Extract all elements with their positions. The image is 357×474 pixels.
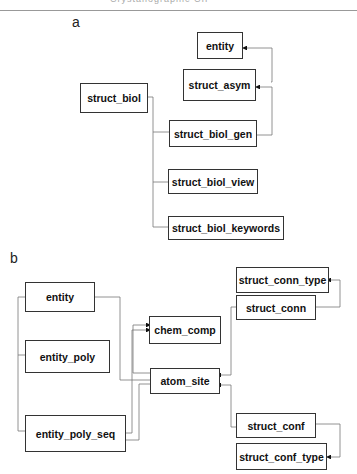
box-struct-conn: struct_conn (236, 295, 316, 320)
box-struct-biol: struct_biol (80, 83, 148, 113)
panel-label-b: b (10, 250, 18, 266)
box-entity-b: entity (25, 282, 95, 312)
box-struct-asym: struct_asym (183, 69, 256, 101)
box-entity-poly-seq: entity_poly_seq (25, 415, 126, 452)
box-entity-poly: entity_poly (25, 340, 110, 373)
box-struct-conn-type: struct_conn_type (236, 267, 329, 293)
box-struct-biol-view: struct_biol_view (168, 169, 258, 194)
box-entity-a: entity (197, 32, 243, 59)
box-struct-conf: struct_conf (236, 413, 316, 438)
box-atom-site: atom_site (150, 368, 220, 394)
panel-label-a: a (72, 14, 80, 30)
box-struct-biol-keywords: struct_biol_keywords (168, 216, 284, 240)
box-struct-biol-gen: struct_biol_gen (169, 120, 257, 147)
box-chem-comp: chem_comp (149, 316, 221, 344)
box-struct-conf-type: struct_conf_type (236, 443, 327, 470)
